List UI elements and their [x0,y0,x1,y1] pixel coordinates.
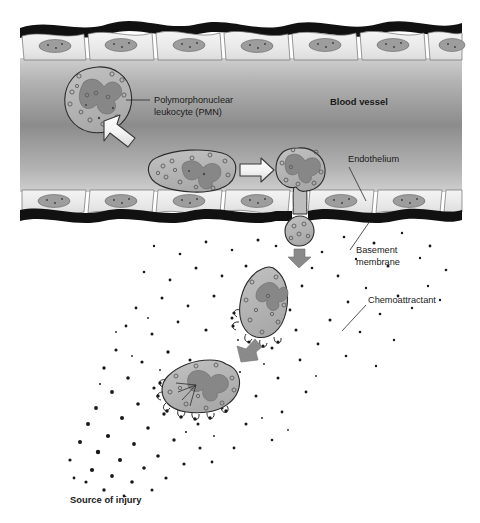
label-chemoattractant: Chemoattractant [368,295,436,305]
figure-root: Polymorphonuclear leukocyte (PMN) Blood … [0,0,480,523]
label-basement-line2: membrane [356,257,400,267]
label-source-of-injury: Source of injury [70,494,142,505]
pmn-circulating [65,67,132,133]
leukocyte-migration-diagram: Polymorphonuclear leukocyte (PMN) Blood … [0,0,480,523]
label-pmn-line1: Polymorphonuclear [154,95,233,105]
label-pmn-line2: leukocyte (PMN) [154,107,222,117]
label-basement-line1: Basement [356,245,398,255]
label-blood-vessel: Blood vessel [330,96,388,107]
pmn-rolling [148,150,235,192]
label-endothelium: Endothelium [348,154,399,164]
